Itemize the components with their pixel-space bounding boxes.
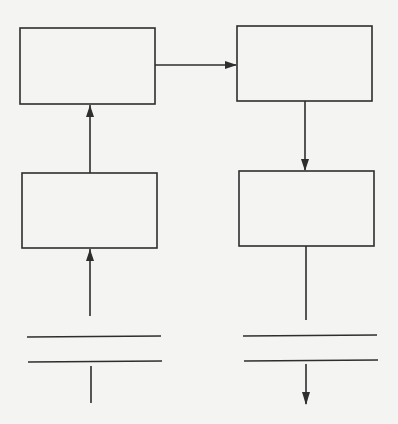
plate-right-top-line [243,335,377,336]
plate-left-top-line [27,336,161,337]
arrowhead-down-icon [302,392,310,405]
arrowhead-up-icon [86,105,94,117]
arrowhead-right-icon [225,61,237,69]
block-bottom-left [22,173,157,248]
block-diagram [0,0,398,424]
plate-right-bottom-line [244,360,378,361]
block-top-right [237,26,372,101]
arrowhead-down-icon [301,159,309,171]
arrowhead-up-icon [86,249,94,261]
block-top-left [20,28,155,104]
plate-left-bottom-line [28,361,162,362]
diagram-canvas [0,0,398,424]
block-bottom-right [239,171,374,246]
